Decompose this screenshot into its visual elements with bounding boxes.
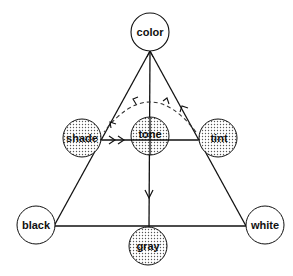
node-white-label: white [250, 219, 279, 231]
node-black: black [17, 206, 55, 244]
arrow-icon [163, 98, 169, 104]
node-color-label: color [137, 26, 165, 38]
node-black-label: black [22, 219, 51, 231]
node-gray-label: gray [136, 240, 160, 252]
color-triangle-diagram: color shade tone tint black white gray [0, 0, 293, 276]
node-shade-label: shade [66, 132, 98, 144]
node-tint: tint [199, 119, 237, 157]
node-shade: shade [63, 119, 101, 157]
node-tint-label: tint [210, 132, 227, 144]
node-color: color [131, 13, 169, 51]
node-gray: gray [129, 227, 167, 265]
node-white: white [246, 206, 284, 244]
node-tone: tone [131, 117, 169, 155]
node-tone-label: tone [138, 128, 161, 140]
arrow-icon [133, 97, 138, 104]
arrow-icon [180, 106, 188, 112]
